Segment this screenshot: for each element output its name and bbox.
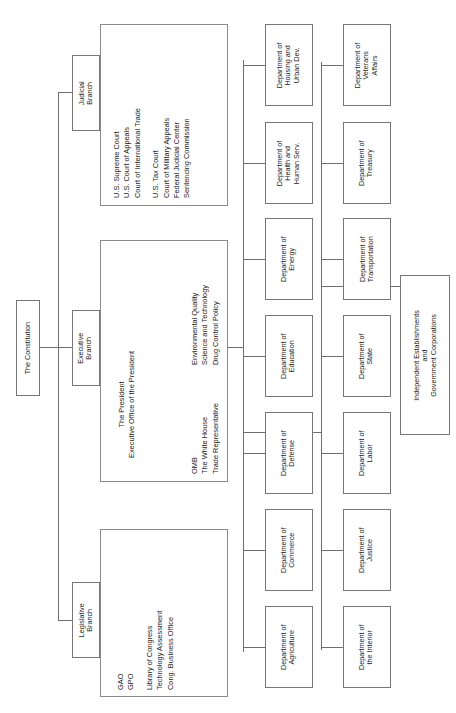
judicial-item-2: Court of International Trade: [133, 108, 143, 198]
department-stub: [243, 259, 265, 260]
department-stub: [243, 550, 265, 551]
independent-establishments-label: Independent EstablishmentsandGovernment …: [413, 310, 438, 401]
legislative-item-4: Cong. Business Office: [166, 611, 176, 690]
department-stub: [321, 163, 343, 164]
executive-top-item-1: Executive Office of the President: [127, 351, 137, 458]
executive-departments-link: [228, 347, 243, 348]
department-box-labor[interactable]: Department ofLabor: [343, 412, 391, 494]
department-label: Department ofVeteransAffairs: [355, 42, 380, 88]
department-stub: [321, 356, 343, 357]
department-box-housing-urban-dev[interactable]: Department ofHousing andUrban Dev.: [265, 24, 313, 106]
department-box-defense[interactable]: Department ofDefense: [265, 412, 313, 494]
executive-left-item-2: Trade Representative: [211, 403, 221, 474]
department-stub: [243, 356, 265, 357]
branch-label-legislative: LegislativeBranch: [78, 603, 95, 637]
department-label: Department ofTransportation: [359, 236, 376, 282]
department-label: Department ofCommerce: [281, 527, 298, 573]
independent-establishments-box[interactable]: Independent EstablishmentsandGovernment …: [400, 275, 450, 435]
department-stub: [321, 550, 343, 551]
department-label: Department ofTreasury: [359, 140, 376, 186]
executive-top-item-0: The President: [117, 351, 127, 458]
department-box-state[interactable]: Department ofState: [343, 315, 391, 397]
department-stub: [321, 453, 343, 454]
department-label: Department ofHealth andHuman Serv.: [277, 140, 302, 186]
executive-connector: [58, 347, 73, 348]
legislative-members-list: GAO GPO Library of Congress Technology A…: [116, 611, 176, 690]
root-label: The Constitution: [24, 322, 32, 374]
department-stub: [321, 647, 343, 648]
department-box-veterans-affairs[interactable]: Department ofVeteransAffairs: [343, 24, 391, 106]
branch-label-judicial: JudicialBranch: [78, 81, 95, 105]
judicial-item-6: Sentencing Commission: [182, 108, 192, 198]
department-box-interior[interactable]: Department ofthe Interior: [343, 606, 391, 688]
legislative-item-3: Technology Assessment: [155, 611, 165, 690]
legislative-item-2: Library of Congress: [145, 611, 155, 690]
department-label: Department ofthe Interior: [359, 624, 376, 670]
department-box-transportation[interactable]: Department ofTransportation: [343, 218, 391, 300]
department-stub: [243, 647, 265, 648]
legislative-item-0: GAO: [116, 611, 126, 690]
department-box-justice[interactable]: Department ofJustice: [343, 509, 391, 591]
branch-box-judicial[interactable]: JudicialBranch: [72, 55, 100, 131]
department-box-health-human-serv[interactable]: Department ofHealth andHuman Serv.: [265, 122, 313, 204]
executive-left-item-0: OMB: [190, 403, 200, 474]
department-stub: [243, 65, 265, 66]
department-label: Department ofState: [359, 333, 376, 379]
branch-box-executive[interactable]: ExecutiveBranch: [72, 310, 100, 386]
root-connector-stub: [40, 347, 58, 348]
legislative-item-1: GPO: [126, 611, 136, 690]
branch-label-executive: ExecutiveBranch: [78, 332, 95, 363]
judicial-item-1: U.S. Court of Appeals: [122, 108, 132, 198]
executive-top-list: The President Executive Office of the Pr…: [117, 351, 138, 458]
department-stub: [321, 65, 343, 66]
executive-left-item-1: The White House: [200, 403, 210, 474]
department-box-commerce[interactable]: Department ofCommerce: [265, 509, 313, 591]
judicial-members-list: U.S. Supreme Court U.S. Court of Appeals…: [112, 108, 193, 198]
department-stub: [243, 163, 265, 164]
department-stub: [243, 453, 265, 454]
department-box-education[interactable]: Department ofEducation: [265, 315, 313, 397]
department-label: Department ofHousing andUrban Dev.: [277, 42, 302, 88]
executive-right-list: Environmental Quality Science and Techno…: [190, 285, 221, 365]
judicial-item-3: U.S. Tax Court: [151, 108, 161, 198]
judicial-item-5: Federal Judicial Center: [172, 108, 182, 198]
department-label: Department ofDefense: [281, 430, 298, 476]
root-box-constitution[interactable]: The Constitution: [16, 300, 40, 396]
department-label: Department ofAgriculture: [281, 624, 298, 670]
department-box-energy[interactable]: Department ofEnergy: [265, 218, 313, 300]
executive-right-item-1: Science and Technology: [200, 285, 210, 365]
department-box-treasury[interactable]: Department ofTreasury: [343, 122, 391, 204]
department-box-agriculture[interactable]: Department ofAgriculture: [265, 606, 313, 688]
judicial-item-4: Court of Military Appeals: [162, 108, 172, 198]
judicial-item-0: U.S. Supreme Court: [112, 108, 122, 198]
root-connector-trunk: [58, 92, 59, 620]
judicial-connector: [58, 92, 73, 93]
department-label: Department ofLabor: [359, 430, 376, 476]
executive-right-item-2: Drug Control Policy: [211, 285, 221, 365]
department-label: Department ofEducation: [281, 333, 298, 379]
branch-box-legislative[interactable]: LegislativeBranch: [72, 582, 100, 658]
executive-left-list: OMB The White House Trade Representative: [190, 403, 221, 474]
executive-right-item-0: Environmental Quality: [190, 285, 200, 365]
legislative-connector: [58, 620, 73, 621]
department-stub: [321, 259, 343, 260]
department-label: Department ofJustice: [359, 527, 376, 573]
department-label: Department ofEnergy: [281, 236, 298, 282]
